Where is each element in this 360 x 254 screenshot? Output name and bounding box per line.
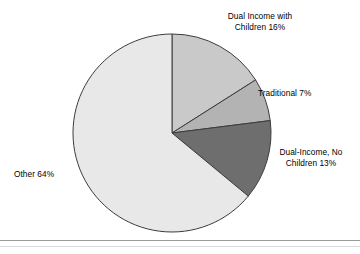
chart-plot-area: Dual Income with Children 16% Traditiona… [0,0,360,240]
pie-label-dual-income-no-children: Dual-Income, No Children 13% [262,147,360,168]
pie-label-other: Other 64% [14,169,94,180]
pie-label-dual-income-with-children: Dual Income with Children 16% [200,11,320,32]
pie-slice-group [73,34,271,232]
pie-chart-figure: Dual Income with Children 16% Traditiona… [0,0,360,254]
pie-label-traditional: Traditional 7% [258,88,358,99]
pie-chart-svg [0,0,360,240]
footer-divider-secondary [0,246,360,247]
footer-divider [0,240,360,241]
